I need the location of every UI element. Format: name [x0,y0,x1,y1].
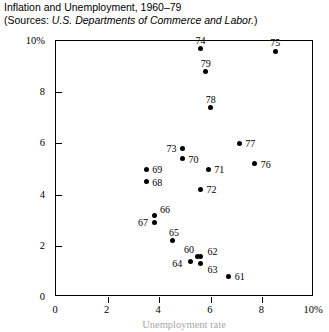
data-point [144,179,149,184]
data-point [180,156,185,161]
data-point-label: 78 [206,95,216,105]
data-point [144,167,149,172]
data-point [152,213,157,218]
y-axis-tick-label: 4 [0,188,45,199]
data-point [198,187,203,192]
data-point-label: 66 [160,205,170,215]
y-axis-tick [56,143,62,144]
y-axis-tick [56,195,62,196]
data-point [237,141,242,146]
data-point [208,105,213,110]
page-title: Inflation and Unemployment, 1960–79 [4,1,326,14]
data-point-label: 69 [152,165,162,175]
data-point [188,259,193,264]
subtitle-suffix: ) [254,14,258,26]
data-point [203,69,208,74]
data-point-label: 68 [152,178,162,188]
scatter-chart-figure: Inflation and Unemployment, 1960–79 (Sou… [0,0,329,332]
x-axis-tick [262,297,263,303]
data-point [252,161,257,166]
x-axis-tick [108,297,109,303]
data-point-label: 70 [188,155,198,165]
chart-subtitle: (Sources: U.S. Departments of Commerce a… [4,14,326,27]
y-axis-tick-label: 0 [0,291,45,302]
data-point-label: 74 [195,36,205,46]
data-point [198,261,203,266]
data-point-label: 76 [261,160,271,170]
y-axis-tick-label: 6 [0,137,45,148]
data-point-label: 67 [138,218,148,228]
x-axis-tick [211,297,212,303]
data-point [152,220,157,225]
subtitle-source: U.S. Departments of Commerce and Labor. [52,14,254,26]
subtitle-prefix: (Sources: [4,14,52,26]
data-point [206,167,211,172]
x-axis-tick-label: 6 [207,304,212,315]
data-point-label: 63 [207,265,217,275]
y-axis-tick-label: 8 [0,86,45,97]
x-axis-tick-label: 8 [259,304,264,315]
data-point-label: 75 [270,38,280,48]
data-point-label: 61 [235,272,245,282]
x-axis-tick-label: 10% [303,304,322,315]
y-axis-tick [56,92,62,93]
data-point-label: 72 [206,185,216,195]
data-point [226,274,231,279]
x-axis-tick-label: 0 [52,304,57,315]
chart-header: Inflation and Unemployment, 1960–79 (Sou… [4,1,326,27]
plot-area: 6061626364656667686970717273747576777879 [55,40,313,296]
x-axis-label: Unemployment rate [55,319,313,332]
data-point [170,238,175,243]
data-point [198,46,203,51]
data-point-label: 65 [169,228,179,238]
data-point-label: 77 [245,139,255,149]
data-point [198,254,203,259]
x-axis-tick-label: 2 [104,304,109,315]
data-point-label: 62 [207,247,217,257]
y-axis-tick-label: 2 [0,239,45,250]
y-axis-tick [56,246,62,247]
data-point [273,49,278,54]
data-point-label: 64 [172,259,182,269]
data-point-label: 71 [214,165,224,175]
data-point-label: 79 [201,59,211,69]
x-axis-tick-label: 4 [156,304,161,315]
data-point-label: 60 [184,245,194,255]
data-point-label: 73 [166,144,176,154]
x-axis-tick [159,297,160,303]
y-axis-tick-label: 10% [0,35,45,46]
data-point [180,146,185,151]
